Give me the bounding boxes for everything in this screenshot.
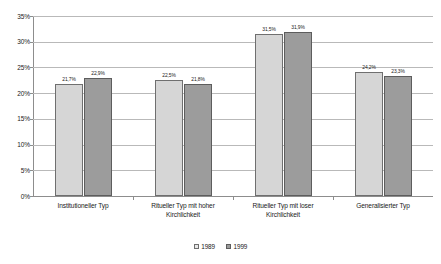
bar-value-label: 23,3% [379,68,417,74]
y-axis-label: 5% [21,167,30,174]
category-separator [133,196,134,200]
legend-item-1999: 1999 [226,243,247,250]
bar-1989-4 [355,72,383,196]
legend-swatch-1989 [194,244,199,249]
y-axis-label: 20% [17,90,30,97]
legend-label: 1999 [234,243,248,250]
y-axis-label: 30% [17,38,30,45]
bar-chart: 0%5%10%15%20%25%30%35% 21,7%22,9%22,5%21… [0,0,441,264]
bar-1999-2 [184,84,212,196]
bar-1999-3 [284,32,312,196]
y-axis-tick [30,170,33,171]
gridline [33,42,433,43]
legend-label: 1989 [201,243,215,250]
category-label-3: Ritueller Typ mit loserKirchlichkeit [233,202,333,219]
bar-1989-2 [155,80,183,196]
y-axis-label: 10% [17,141,30,148]
bar-1989-1 [55,84,83,196]
y-axis-tick [30,119,33,120]
category-separator [233,196,234,200]
category-separator [333,196,334,200]
y-axis-tick [30,145,33,146]
category-label-2: Ritueller Typ mit hoherKirchlichkeit [133,202,233,219]
legend-item-1989: 1989 [194,243,215,250]
bar-value-label: 31,9% [279,24,317,30]
y-axis-tick [30,196,33,197]
y-axis-tick [30,67,33,68]
gridline [33,16,433,17]
category-label-4: Generalisierter Typ [333,202,433,211]
bar-value-label: 21,7% [50,77,88,83]
bar-1989-3 [255,34,283,196]
y-axis-label: 35% [17,13,30,20]
category-label-1: Institutioneller Typ [33,202,133,211]
bar-1999-1 [84,78,112,196]
y-axis-label: 0% [21,193,30,200]
y-axis-tick [30,93,33,94]
y-axis-label: 25% [17,64,30,71]
bar-1999-4 [384,76,412,196]
chart-legend: 19891999 [0,243,441,250]
legend-swatch-1999 [226,244,231,249]
bar-value-label: 22,9% [79,70,117,76]
y-axis-tick [30,42,33,43]
y-axis-tick [30,16,33,17]
plot-area: 21,7%22,9%22,5%21,8%31,5%31,9%24,2%23,3% [33,16,433,196]
y-axis-label: 15% [17,115,30,122]
bar-value-label: 21,8% [179,76,217,82]
